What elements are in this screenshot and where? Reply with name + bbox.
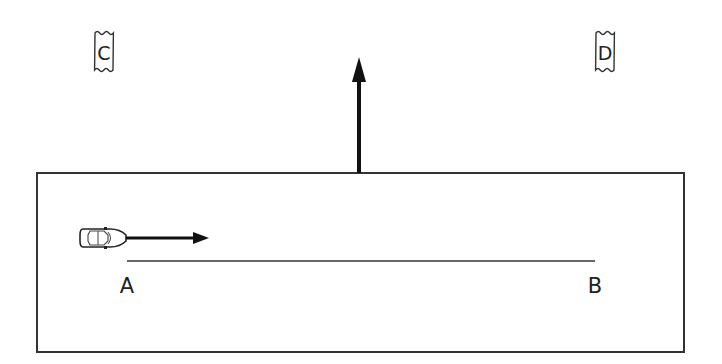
point-b-label: B — [588, 274, 602, 298]
tag-d-label: D — [598, 42, 613, 64]
tag-d: D — [596, 32, 615, 72]
upward-arrow — [352, 57, 366, 173]
car-icon — [80, 227, 126, 249]
diagram-canvas: C D A B — [0, 0, 722, 364]
region-rectangle — [37, 173, 684, 352]
velocity-arrow — [126, 232, 209, 244]
point-a-label: A — [120, 274, 135, 298]
tag-c: C — [95, 32, 114, 72]
tag-c-label: C — [97, 42, 110, 64]
